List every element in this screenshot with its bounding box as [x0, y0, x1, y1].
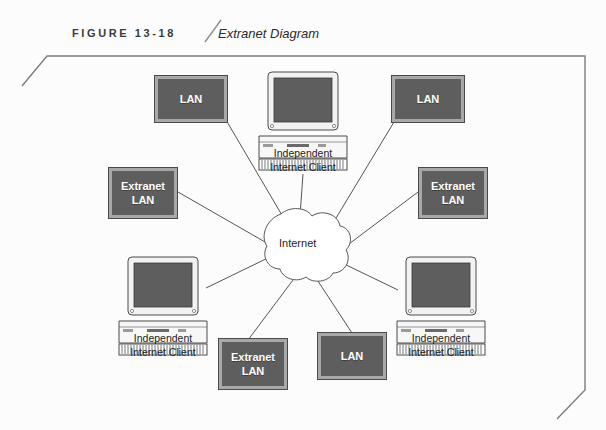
client-top-caption: Independent Internet Client — [248, 146, 358, 174]
lan-box-top-right-label: LAN — [395, 92, 461, 106]
client-top-caption-line2: Internet Client — [270, 161, 335, 173]
extranet-lan-box-left-label: ExtranetLAN — [112, 179, 174, 207]
lan-box-bottom-label: LAN — [321, 349, 383, 363]
network-diagram — [0, 0, 606, 430]
connection-extranet-lan-bottom — [248, 272, 299, 340]
connection-client-bottom-left — [206, 256, 272, 288]
client-bottom-right-caption-line2: Internet Client — [408, 346, 473, 358]
client-bottom-right-caption: Independent Internet Client — [386, 331, 496, 359]
connection-extranet-lan-left — [178, 192, 272, 246]
extranet-lan-box-bottom[interactable]: ExtranetLAN — [219, 339, 287, 389]
lan-box-bottom[interactable]: LAN — [318, 333, 386, 379]
client-bottom-left-caption-line1: Independent — [134, 332, 192, 344]
connection-client-bottom-right — [340, 262, 398, 290]
client-top-caption-line1: Independent — [274, 147, 332, 159]
client-bottom-left-caption-line2: Internet Client — [130, 346, 195, 358]
extranet-lan-box-right-label: ExtranetLAN — [422, 179, 484, 207]
extranet-lan-box-right[interactable]: ExtranetLAN — [419, 168, 487, 218]
extranet-lan-box-left[interactable]: ExtranetLAN — [109, 168, 177, 218]
lan-box-top-left[interactable]: LAN — [155, 76, 227, 122]
client-bottom-left-caption: Independent Internet Client — [108, 331, 218, 359]
connection-extranet-lan-right — [341, 192, 418, 250]
client-bottom-right-caption-line1: Independent — [412, 332, 470, 344]
internet-cloud-label: Internet — [279, 237, 316, 249]
figure-page: FIGURE 13-18 Extranet Diagram — [0, 0, 606, 430]
lan-box-top-right[interactable]: LAN — [392, 76, 464, 122]
lan-box-top-left-label: LAN — [158, 92, 224, 106]
extranet-lan-box-bottom-label: ExtranetLAN — [222, 350, 284, 378]
